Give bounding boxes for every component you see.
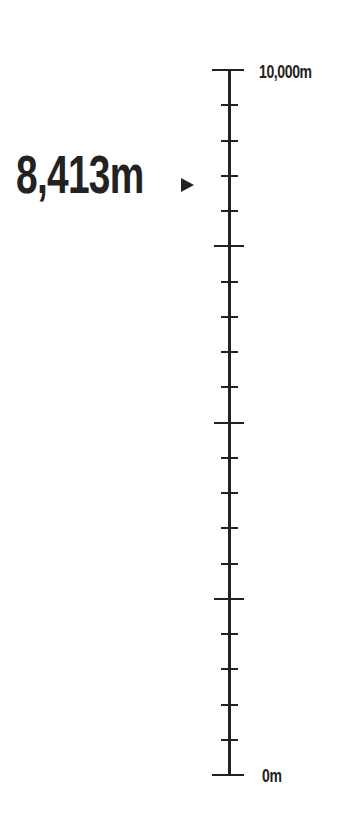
major-tick [214,422,244,424]
major-tick [214,245,244,247]
altitude-gauge: 10,000m 0m 8,413m [0,0,364,817]
current-value-label: 8,413m [16,147,144,201]
minor-tick [221,739,238,741]
minor-tick [221,668,238,670]
end-tick [212,774,244,776]
minor-tick [221,492,238,494]
minor-tick [221,281,238,283]
minor-tick [221,527,238,529]
minor-tick [221,457,238,459]
minor-tick [221,563,238,565]
minor-tick [221,386,238,388]
minor-tick [221,104,238,106]
major-tick [214,598,244,600]
minor-tick [221,351,238,353]
minor-tick [221,704,238,706]
minor-tick [221,633,238,635]
minor-tick [221,140,238,142]
min-label: 0m [262,767,282,785]
end-tick [212,69,244,71]
triangle-right-icon [181,178,194,192]
max-label: 10,000m [259,63,312,81]
minor-tick [221,316,238,318]
minor-tick [221,210,238,212]
minor-tick [221,175,238,177]
